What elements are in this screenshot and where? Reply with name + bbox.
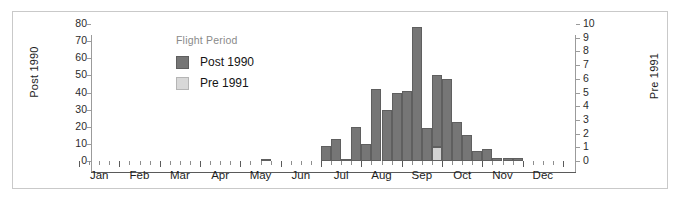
bar-post-1990 xyxy=(351,127,361,161)
bar-post-1990 xyxy=(392,93,402,162)
y-axis-right-tick-label: 10 xyxy=(583,18,609,28)
x-axis-tick-mark xyxy=(160,161,161,167)
x-axis-month-label: Jan xyxy=(79,169,119,181)
x-axis-month-label: Jun xyxy=(281,169,321,181)
x-axis-tick-mark xyxy=(321,161,322,167)
y-axis-right-tick-mark xyxy=(576,147,580,148)
x-axis-tick-mark xyxy=(553,161,554,165)
bar-post-1990 xyxy=(341,159,351,161)
x-axis-tick-mark xyxy=(543,161,544,165)
bar-post-1990 xyxy=(482,149,492,161)
x-axis-tick-mark xyxy=(462,161,463,165)
x-axis-tick-mark xyxy=(140,161,141,165)
chart-frame: Post 1990 Pre 1991 01020304050607080 012… xyxy=(12,11,668,189)
x-axis-tick-mark xyxy=(442,161,443,167)
bar-post-1990 xyxy=(331,139,341,161)
x-axis-tick-mark xyxy=(412,161,413,165)
x-axis-tick-mark xyxy=(301,161,302,165)
x-axis-month-label: Nov xyxy=(483,169,523,181)
y-axis-right-tick-mark xyxy=(576,79,580,80)
x-axis-tick-mark xyxy=(513,161,514,165)
x-axis-month-label: May xyxy=(241,169,281,181)
bar-post-1990 xyxy=(412,27,422,161)
x-axis-tick-mark xyxy=(129,161,130,165)
y-axis-right-tick-label: 0 xyxy=(583,155,609,165)
x-axis-month-label: Mar xyxy=(160,169,200,181)
x-axis-tick-mark xyxy=(119,161,120,167)
legend-swatch-pre-1991-icon xyxy=(176,77,189,90)
y-axis-right-tick-mark xyxy=(576,120,580,121)
y-axis-right-title: Pre 1991 xyxy=(648,31,660,121)
bar-post-1990 xyxy=(371,89,381,161)
bar-post-1990 xyxy=(382,110,392,161)
x-axis-tick-mark xyxy=(250,161,251,165)
x-axis-tick-mark xyxy=(89,161,90,165)
y-axis-right-line xyxy=(575,35,576,173)
y-axis-right-tick-mark xyxy=(576,51,580,52)
y-axis-right-tick-label: 3 xyxy=(583,114,609,124)
x-axis-month-label: Apr xyxy=(200,169,240,181)
flight-period-chart-figure: Post 1990 Pre 1991 01020304050607080 012… xyxy=(0,0,682,202)
bar-post-1990 xyxy=(462,135,472,161)
bar-post-1990 xyxy=(361,144,371,161)
y-axis-right-tick-mark xyxy=(576,93,580,94)
chart-legend: Flight Period Post 1990 Pre 1991 xyxy=(176,34,254,97)
x-axis-tick-mark xyxy=(563,161,564,167)
x-axis-month-label: Dec xyxy=(523,169,563,181)
x-axis-tick-mark xyxy=(291,161,292,165)
x-axis-tick-mark xyxy=(492,161,493,165)
x-axis-tick-mark xyxy=(220,161,221,165)
x-axis-tick-mark xyxy=(311,161,312,165)
x-axis-tick-mark xyxy=(402,161,403,167)
y-axis-right-tick-label: 1 xyxy=(583,141,609,151)
x-axis-tick-mark xyxy=(452,161,453,165)
x-axis-tick-mark xyxy=(230,161,231,165)
y-axis-right-tick-label: 7 xyxy=(583,59,609,69)
bar-pre-1991 xyxy=(432,147,442,161)
y-axis-right-tick-mark xyxy=(576,161,580,162)
x-axis-tick-mark xyxy=(503,161,504,165)
x-axis-tick-mark xyxy=(533,161,534,165)
x-axis-tick-mark xyxy=(472,161,473,165)
y-axis-right-tick-mark xyxy=(576,106,580,107)
bar-post-1990 xyxy=(472,151,482,161)
bar-post-1990 xyxy=(503,158,513,161)
x-axis-tick-mark xyxy=(150,161,151,165)
legend-label-pre-1991: Pre 1991 xyxy=(200,76,249,90)
legend-item-pre-1991: Pre 1991 xyxy=(176,76,254,90)
y-axis-right-tick-label: 4 xyxy=(583,100,609,110)
bar-post-1990 xyxy=(452,122,462,161)
y-axis-right-tick-label: 6 xyxy=(583,73,609,83)
x-axis-tick-mark xyxy=(180,161,181,165)
x-axis-tick-mark xyxy=(351,161,352,165)
plot-area xyxy=(79,24,563,161)
y-axis-right-tick-mark xyxy=(576,24,580,25)
x-axis-tick-mark xyxy=(482,161,483,167)
bar-post-1990 xyxy=(402,91,412,161)
bar-post-1990 xyxy=(432,75,442,147)
x-axis-tick-mark xyxy=(240,161,241,167)
x-axis-month-label: Aug xyxy=(362,169,402,181)
x-axis-tick-mark xyxy=(432,161,433,165)
y-axis-right-tick-mark xyxy=(576,134,580,135)
y-axis-right-tick-label: 8 xyxy=(583,45,609,55)
x-axis-tick-mark xyxy=(190,161,191,165)
x-axis-tick-mark xyxy=(382,161,383,165)
x-axis-tick-mark xyxy=(371,161,372,165)
x-axis-tick-mark xyxy=(361,161,362,167)
bar-post-1990 xyxy=(513,158,523,161)
x-axis-tick-mark xyxy=(331,161,332,165)
x-axis-tick-mark xyxy=(261,161,262,165)
x-axis-tick-mark xyxy=(99,161,100,165)
y-axis-right-tick-label: 5 xyxy=(583,87,609,97)
x-axis-tick-mark xyxy=(271,161,272,165)
y-axis-right-tick-label: 2 xyxy=(583,128,609,138)
x-axis-tick-mark xyxy=(79,161,80,167)
x-axis-tick-mark xyxy=(392,161,393,165)
x-axis-month-label: Feb xyxy=(120,169,160,181)
x-axis-tick-mark xyxy=(109,161,110,165)
y-axis-right-tick-mark xyxy=(576,38,580,39)
bar-post-1990 xyxy=(442,79,452,161)
legend-label-post-1990: Post 1990 xyxy=(200,55,254,69)
y-axis-left-title: Post 1990 xyxy=(28,27,40,117)
